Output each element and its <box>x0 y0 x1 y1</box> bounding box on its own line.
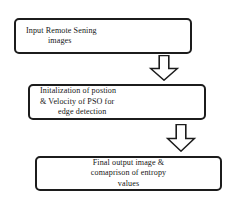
flowchart-diagram: Input Remote Sening images Initalization… <box>0 0 243 199</box>
node-input-line-2: images <box>22 36 184 46</box>
node-output-line-2: comaprison of entropy <box>43 168 214 178</box>
node-output-line-1: Final output image & <box>43 158 214 168</box>
block-arrow-down-icon <box>165 124 197 152</box>
node-init-line-3: edge detection <box>36 107 198 117</box>
block-arrow-down-icon <box>148 55 180 81</box>
node-init-line-1: Initalization of postion <box>36 86 198 96</box>
node-init-line-2: & Velocity of PSO for <box>36 97 198 107</box>
flowchart-node-initialization: Initalization of postion & Velocity of P… <box>28 84 206 120</box>
flowchart-node-output: Final output image & comaprison of entro… <box>35 156 222 191</box>
flowchart-node-input: Input Remote Sening images <box>14 18 192 54</box>
node-output-line-3: values <box>43 179 214 189</box>
node-input-line-1: Input Remote Sening <box>22 26 184 36</box>
